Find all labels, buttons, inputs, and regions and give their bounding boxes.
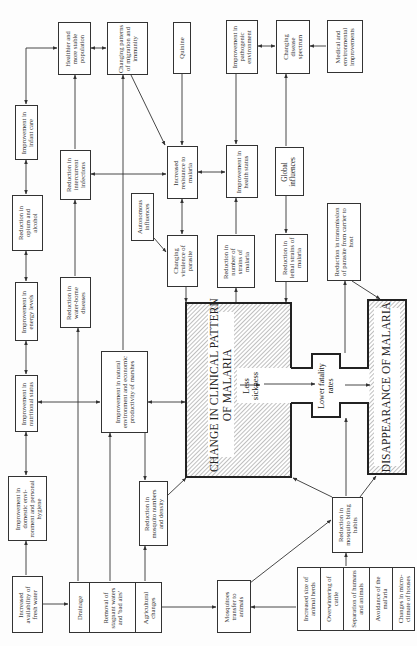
node-natural-environment: Improvement in natural environment and e… <box>101 351 148 433</box>
microclimate-cell: Changes in micro-climate of houses <box>393 568 414 630</box>
node-global-influences: Global influences <box>275 147 304 196</box>
node-domestic-environment: Improvement in domestic envi-ronment and… <box>8 476 47 541</box>
node-mosquito-numbers: Reduction in mosquito numbers and densit… <box>139 481 168 546</box>
node-transmission-parasite: Reduction in transmission of parasite fr… <box>327 203 361 281</box>
node-medical-environmental: Medical and environmental improvements <box>327 20 363 73</box>
overwintering-cell: Overwintering of cattle <box>321 568 344 630</box>
node-infant-care: Improvement in infant care <box>15 105 38 160</box>
node-disease-spectrum: Changing disease spectrum <box>276 20 310 74</box>
node-health-status: Improvement in health status <box>226 145 258 198</box>
node-lethal-strains: Reduction in lethal strains of malaria <box>275 234 308 282</box>
lower-fatality-label: Lower fatality rates <box>315 356 339 416</box>
animal-factors-group: Increased size of animal herds Overwinte… <box>297 567 415 631</box>
node-pathogenic-environment: Improvement in pathogenic environment <box>226 20 258 74</box>
node-quinine: Quinine <box>173 22 191 74</box>
disappearance-label: DISAPPEARANCE OF MALARIA <box>374 308 400 466</box>
separation-cell: Separation of humans and animals <box>344 568 370 630</box>
node-migration-immunity: Changing patterns of migration and immun… <box>107 22 148 75</box>
animal-herds-cell: Increased size of animal herds <box>298 568 321 630</box>
removal-stagnant-cell: Removal of stagnant waters and 'bad airs… <box>90 583 136 632</box>
avoidance-cell: Avoidance of the mal'aria <box>370 568 393 630</box>
node-opium-alcohol: Reduction in opium and alcohol <box>12 195 43 251</box>
node-water-borne: Reduction in water-borne diseases <box>60 277 91 328</box>
node-autonomous-influences: Autonomous influences <box>131 193 154 241</box>
node-fresh-water: Increased availability of fresh water <box>12 576 43 633</box>
drainage-cell: Drainage <box>70 583 90 632</box>
drainage-group: Drainage Removal of stagnant waters and … <box>69 582 162 633</box>
node-nutritional-status: Improvement in nutritional status <box>15 375 38 432</box>
node-increased-resistance: Increased resistance to malaria <box>167 146 198 199</box>
agricultural-changes-cell: Agricultural changes <box>136 583 161 632</box>
node-healthier-population: Healthier and more stable population <box>58 22 91 75</box>
node-mosquitoes-animals: Mosquitoes transfer to animals <box>217 580 251 633</box>
node-virulence-parasite: Changing virulence of parasite <box>167 235 198 287</box>
clinical-pattern-label: CHANGE IN CLINICAL PATTERN OF MALARIA <box>208 312 234 457</box>
node-mosquito-biting: Reduction in mosquito biting habits <box>332 497 363 553</box>
node-number-of-strains: Reduction in number of strains of malari… <box>217 235 255 288</box>
node-energy-levels: Improvement in energy levels <box>15 282 38 341</box>
malaria-decline-diagram: Healthier and more stable population Cha… <box>0 0 417 646</box>
node-intercurrent-infections: Reduction in intercurrent infections <box>60 150 91 200</box>
less-sickness-label: Less sickness <box>238 368 264 403</box>
